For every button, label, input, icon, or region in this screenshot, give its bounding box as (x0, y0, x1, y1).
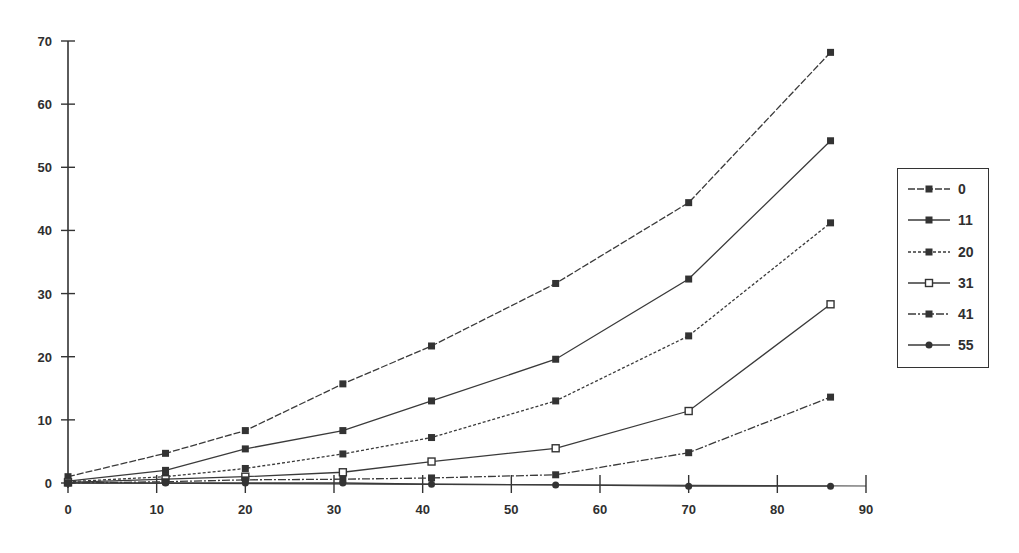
legend-label: 20 (958, 244, 974, 260)
data-point (685, 483, 692, 490)
y-tick-label: 0 (45, 476, 52, 491)
data-point (685, 199, 692, 206)
data-point (926, 280, 933, 287)
legend-swatch-icon (906, 179, 952, 199)
legend-item-31: 31 (906, 273, 974, 293)
x-tick-label: 10 (149, 502, 163, 517)
x-tick-label: 0 (64, 502, 71, 517)
series-41 (65, 394, 835, 487)
data-point (552, 481, 559, 488)
data-point (428, 397, 435, 404)
legend-swatch-icon (906, 335, 952, 355)
chart-series (65, 49, 835, 490)
data-point (428, 458, 435, 465)
data-point (926, 311, 933, 318)
x-tick-label: 70 (681, 502, 695, 517)
data-point (552, 445, 559, 452)
x-tick-label: 50 (504, 502, 518, 517)
legend-item-11: 11 (906, 210, 973, 230)
legend-label: 55 (958, 337, 974, 353)
series-31 (65, 301, 835, 486)
legend-item-0: 0 (906, 179, 966, 199)
data-point (926, 249, 933, 256)
x-tick-label: 20 (238, 502, 252, 517)
data-point (685, 332, 692, 339)
series-20 (65, 219, 835, 485)
data-point (827, 301, 834, 308)
data-point (339, 469, 346, 476)
legend-label: 31 (958, 275, 974, 291)
chart-legend: 0 11 20 31 41 55 (897, 168, 989, 368)
series-55 (65, 480, 835, 490)
data-point (242, 480, 249, 487)
data-point (552, 280, 559, 287)
data-point (339, 480, 346, 487)
legend-label: 41 (958, 306, 974, 322)
y-tick-label: 60 (38, 97, 52, 112)
series-line (68, 223, 831, 482)
y-tick-label: 50 (38, 160, 52, 175)
legend-swatch-icon (906, 210, 952, 230)
data-point (428, 342, 435, 349)
data-point (552, 471, 559, 478)
legend-swatch-icon (906, 304, 952, 324)
data-point (428, 434, 435, 441)
data-point (162, 467, 169, 474)
data-point (827, 394, 834, 401)
data-point (685, 449, 692, 456)
data-point (926, 217, 933, 224)
data-point (827, 219, 834, 226)
series-0 (65, 49, 835, 480)
y-tick-label: 30 (38, 287, 52, 302)
legend-item-55: 55 (906, 335, 974, 355)
data-point (827, 49, 834, 56)
data-point (65, 480, 72, 487)
data-point (827, 483, 834, 490)
data-point (339, 427, 346, 434)
y-tick-label: 10 (38, 413, 52, 428)
series-line (68, 304, 831, 482)
series-line (68, 52, 831, 476)
data-point (685, 408, 692, 415)
data-point (926, 342, 933, 349)
x-tick-label: 60 (593, 502, 607, 517)
data-point (242, 427, 249, 434)
data-point (685, 276, 692, 283)
data-point (552, 356, 559, 363)
y-tick-label: 40 (38, 223, 52, 238)
legend-label: 11 (958, 212, 973, 228)
x-tick-label: 80 (770, 502, 784, 517)
data-point (428, 474, 435, 481)
data-point (552, 397, 559, 404)
series-line (68, 397, 831, 483)
series-line (68, 141, 831, 481)
series-line (68, 483, 831, 486)
x-tick-label: 90 (859, 502, 873, 517)
legend-item-20: 20 (906, 242, 974, 262)
data-point (827, 137, 834, 144)
y-tick-label: 20 (38, 350, 52, 365)
data-point (242, 445, 249, 452)
legend-swatch-icon (906, 242, 952, 262)
data-point (242, 465, 249, 472)
legend-label: 0 (958, 181, 966, 197)
chart-axes: 0102030405060700102030405060708090 (38, 34, 874, 517)
y-tick-label: 70 (38, 34, 52, 49)
legend-swatch-icon (906, 273, 952, 293)
data-point (428, 481, 435, 488)
line-chart: 0102030405060700102030405060708090 (0, 0, 1019, 553)
legend-item-41: 41 (906, 304, 974, 324)
data-point (339, 380, 346, 387)
data-point (339, 450, 346, 457)
x-tick-label: 40 (415, 502, 429, 517)
data-point (162, 480, 169, 487)
data-point (926, 186, 933, 193)
data-point (162, 450, 169, 457)
x-tick-label: 30 (327, 502, 341, 517)
